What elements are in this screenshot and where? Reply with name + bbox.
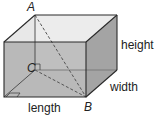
front-face <box>4 42 86 97</box>
point-c-label: C <box>27 62 36 74</box>
point-a-label: A <box>27 1 35 13</box>
prism-diagram <box>0 0 157 116</box>
point-b-label: B <box>84 101 92 113</box>
height-label: height <box>121 39 154 51</box>
length-label: length <box>28 102 61 114</box>
width-label: width <box>110 81 138 93</box>
